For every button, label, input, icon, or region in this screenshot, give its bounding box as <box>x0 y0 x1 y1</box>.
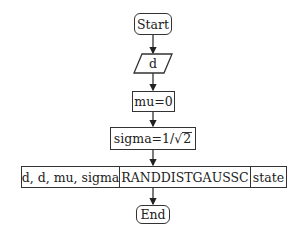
call-input-args: d, d, mu, sigma <box>22 167 119 187</box>
sqrt-symbol: √ <box>174 131 182 146</box>
call-output-args-label: state <box>253 170 284 185</box>
call-input-args-label: d, d, mu, sigma <box>22 170 119 185</box>
assign-mu-node: mu=0 <box>132 91 175 112</box>
sqrt-argument: 2 <box>182 132 192 146</box>
input-node: d <box>134 54 172 73</box>
start-label: Start <box>137 17 169 32</box>
call-function-name: RANDDISTGAUSSC <box>119 167 250 187</box>
assign-sigma-prefix: sigma=1/ <box>114 131 174 146</box>
start-node: Start <box>134 13 172 35</box>
flowchart-edges <box>0 0 300 234</box>
end-node: End <box>136 205 170 224</box>
input-label: d <box>149 56 157 71</box>
call-output-args: state <box>250 167 286 187</box>
subroutine-call-node: d, d, mu, sigma RANDDISTGAUSSC state <box>21 166 287 188</box>
flowchart-canvas: Start d mu=0 sigma=1/√2 d, d, mu, sigma … <box>0 0 300 234</box>
assign-sigma-node: sigma=1/√2 <box>110 127 196 150</box>
call-function-name-label: RANDDISTGAUSSC <box>121 170 248 185</box>
end-label: End <box>140 207 165 222</box>
assign-mu-label: mu=0 <box>134 94 172 109</box>
